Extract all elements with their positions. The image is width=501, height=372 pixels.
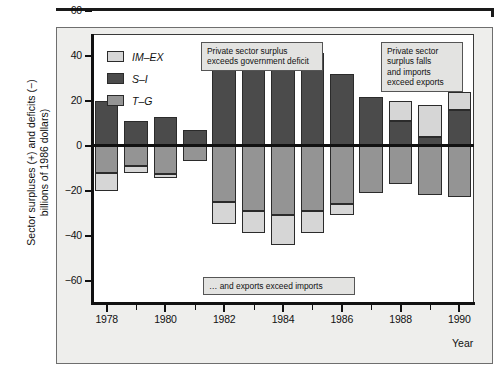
- legend-item: T–G: [107, 92, 164, 109]
- bar-segment-t-g: [95, 146, 119, 173]
- legend: IM–EXS–IT–G: [107, 48, 164, 114]
- bar-segment-t-g: [271, 146, 295, 216]
- bar-segment-s-i: [124, 121, 148, 146]
- y-tick-label: −20: [46, 184, 82, 196]
- x-tick-minor: [136, 305, 137, 310]
- y-tick-label: −40: [46, 229, 82, 241]
- legend-swatch-t-g: [107, 95, 124, 106]
- bar-segment-t-g: [389, 146, 413, 184]
- bar-segment-t-g: [448, 146, 472, 198]
- bar-segment-im-ex: [271, 215, 295, 244]
- y-tick-label: 60: [46, 4, 82, 16]
- x-tick-minor: [430, 305, 431, 310]
- top-rule-tail: [491, 8, 494, 17]
- y-tick: [85, 10, 92, 12]
- y-axis-spine: [91, 34, 94, 305]
- x-tick-minor: [371, 305, 372, 310]
- bar-segment-im-ex: [301, 211, 325, 234]
- bar-segment-t-g: [330, 146, 354, 205]
- bar-segment-t-g: [183, 146, 207, 162]
- x-tick: [458, 305, 460, 312]
- x-tick: [341, 305, 343, 312]
- bar-segment-t-g: [418, 146, 442, 196]
- legend-label: IM–EX: [132, 51, 164, 63]
- bar-segment-im-ex: [389, 101, 413, 121]
- y-tick-label: 40: [46, 49, 82, 61]
- bar-segment-s-i: [154, 117, 178, 145]
- bar-segment-im-ex: [212, 202, 236, 225]
- bar-segment-im-ex: [418, 105, 442, 137]
- x-tick-label: 1980: [145, 313, 185, 325]
- y-tick-label: 0: [46, 139, 82, 151]
- annotation-center-line-2: exceeds government deficit: [207, 56, 317, 66]
- annotation-right-line-3: and imports: [387, 67, 457, 77]
- bar-segment-s-i: [389, 121, 413, 146]
- bar-segment-im-ex: [330, 204, 354, 215]
- annotation-center: Private sector surplus exceeds governmen…: [201, 42, 323, 71]
- x-tick-label: 1982: [204, 313, 244, 325]
- bar-segment-t-g: [212, 146, 236, 202]
- x-tick: [400, 305, 402, 312]
- x-tick-label: 1990: [439, 313, 479, 325]
- annotation-right-line-1: Private sector: [387, 46, 457, 56]
- annotation-right: Private sector surplus falls and imports…: [381, 42, 463, 92]
- bar-segment-s-i: [212, 67, 236, 146]
- x-tick-label: 1986: [322, 313, 362, 325]
- annotation-bottom: … and exports exceed imports: [203, 277, 355, 295]
- legend-item: IM–EX: [107, 48, 164, 65]
- legend-swatch-s-i: [107, 73, 124, 84]
- annotation-right-line-2: surplus falls: [387, 56, 457, 66]
- bar-segment-s-i: [448, 110, 472, 146]
- bar-segment-t-g: [359, 146, 383, 193]
- annotation-right-line-4: exceed exports: [387, 77, 457, 87]
- annotation-bottom-line-1: … and exports exceed imports: [209, 281, 349, 291]
- x-tick-label: 1984: [263, 313, 303, 325]
- legend-label: S–I: [132, 73, 148, 85]
- x-tick: [106, 305, 108, 312]
- annotation-center-line-1: Private sector surplus: [207, 46, 317, 56]
- legend-swatch-im-ex: [107, 51, 124, 62]
- bar-segment-t-g: [242, 146, 266, 211]
- bar-segment-im-ex: [95, 173, 119, 191]
- bar-segment-im-ex: [448, 92, 472, 110]
- x-tick-label: 1988: [381, 313, 421, 325]
- bar-segment-s-i: [242, 59, 266, 146]
- x-tick: [282, 305, 284, 312]
- x-tick: [223, 305, 225, 312]
- zero-line: [92, 144, 474, 147]
- figure-root: Sector surpluses (+) and deficits (−) bi…: [0, 0, 501, 372]
- legend-item: S–I: [107, 70, 164, 87]
- x-axis-title: Year: [452, 337, 473, 349]
- bar-segment-im-ex: [242, 211, 266, 234]
- bar-segment-im-ex: [124, 166, 148, 173]
- bar-segment-t-g: [124, 146, 148, 166]
- x-tick-minor: [254, 305, 255, 310]
- bar-segment-t-g: [301, 146, 325, 211]
- top-rule: [56, 8, 494, 11]
- legend-label: T–G: [132, 95, 152, 107]
- x-tick-minor: [312, 305, 313, 310]
- x-tick-label: 1978: [87, 313, 127, 325]
- x-tick-minor: [195, 305, 196, 310]
- y-tick-label: −60: [46, 274, 82, 286]
- bar-segment-im-ex: [154, 174, 178, 179]
- x-tick: [164, 305, 166, 312]
- bar-segment-s-i: [359, 97, 383, 145]
- y-tick-label: 20: [46, 94, 82, 106]
- bar-segment-t-g: [154, 146, 178, 174]
- bar-segment-s-i: [330, 74, 354, 146]
